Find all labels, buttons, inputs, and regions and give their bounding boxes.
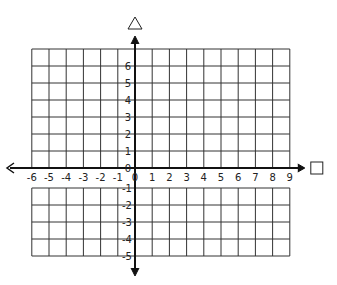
square-icon	[311, 162, 323, 174]
axes	[7, 17, 323, 276]
x-axis-label: -1	[113, 172, 123, 183]
x-axis-label: -2	[96, 172, 106, 183]
y-axis-label: 5	[125, 78, 131, 89]
y-axis-label: -1	[122, 183, 132, 194]
y-axis-label: 2	[125, 129, 131, 140]
coordinate-grid: -6-5-4-3-2-101234567896543210-1-2-3-4-5	[0, 0, 337, 285]
x-axis-arrow-right-icon	[298, 164, 305, 172]
x-axis-label: 5	[218, 172, 224, 183]
x-axis-label: -3	[78, 172, 88, 183]
grid-lines	[32, 49, 290, 256]
x-axis-label: 7	[252, 172, 258, 183]
y-axis-label: 3	[125, 112, 131, 123]
y-axis-arrow-up-icon	[131, 36, 139, 44]
y-axis-label: 0	[125, 163, 131, 174]
y-axis-label: 4	[125, 95, 131, 106]
x-axis-label: 2	[166, 172, 172, 183]
x-axis-label: -5	[44, 172, 54, 183]
y-axis-label: -5	[122, 251, 132, 262]
y-axis-label: -3	[122, 217, 132, 228]
y-axis-label: 6	[125, 61, 131, 72]
x-axis-label: 9	[287, 172, 293, 183]
x-axis-label: 3	[183, 172, 189, 183]
x-axis-label: 4	[201, 172, 207, 183]
axis-labels: -6-5-4-3-2-101234567896543210-1-2-3-4-5	[27, 61, 293, 262]
y-axis-label: -2	[122, 200, 132, 211]
y-axis-label: -4	[122, 234, 132, 245]
x-axis-label: -4	[61, 172, 71, 183]
x-axis-label: 0	[132, 172, 138, 183]
x-axis-label: 8	[269, 172, 275, 183]
x-axis-label: 6	[235, 172, 241, 183]
x-axis-label: -6	[27, 172, 37, 183]
x-axis-label: 1	[149, 172, 155, 183]
triangle-icon	[128, 17, 142, 29]
y-axis-label: 1	[125, 146, 131, 157]
y-axis-arrow-down-icon	[131, 268, 139, 276]
